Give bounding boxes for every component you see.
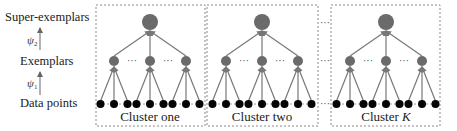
edge [337, 67, 351, 101]
data-point-node [272, 100, 280, 108]
data-point-node [418, 100, 426, 108]
cluster-group: ······Cluster one [96, 5, 205, 126]
data-point-node [308, 100, 316, 108]
ellipsis-exemplar-inner: ··· [275, 55, 285, 66]
data-point-node [196, 100, 204, 108]
label-data-points: Data points [20, 96, 77, 110]
cluster-caption: Cluster K [361, 109, 412, 124]
data-point-node [182, 100, 190, 108]
exemplar-node [109, 56, 119, 66]
edge [213, 67, 227, 101]
data-point-node [258, 100, 266, 108]
ellipsis-exemplar: ··· [320, 55, 330, 66]
edge [285, 67, 299, 101]
ellipsis-super: ··· [320, 17, 330, 28]
edge [186, 67, 200, 101]
edge [226, 67, 240, 101]
edge [150, 67, 164, 101]
label-super-exemplars: Super-exemplars [5, 10, 90, 24]
exemplar-node [345, 56, 355, 66]
between-cluster-ellipses: ··· ··· ··· [320, 17, 330, 109]
edge [101, 67, 115, 101]
data-point-node [369, 100, 377, 108]
data-point-node [294, 100, 302, 108]
edge [262, 67, 276, 101]
data-point-node [222, 100, 230, 108]
data-point-node [405, 100, 413, 108]
super-exemplar-node [378, 14, 394, 30]
exemplar-node [381, 56, 391, 66]
data-point-node [382, 100, 390, 108]
cluster-group: ······Cluster two [207, 5, 318, 126]
edge [150, 31, 186, 56]
data-point-node [169, 100, 177, 108]
edge [137, 67, 151, 101]
data-point-node [360, 100, 368, 108]
super-exemplar-node [142, 14, 158, 30]
edge [262, 31, 298, 56]
exemplar-node [293, 56, 303, 66]
psi-2-symbol: ψ [27, 34, 34, 46]
data-point-node [245, 100, 253, 108]
data-point-node [124, 100, 132, 108]
data-point-node [236, 100, 244, 108]
edge [173, 67, 187, 101]
edge [350, 67, 364, 101]
data-point-node [396, 100, 404, 108]
psi-1-symbol: ψ [27, 77, 34, 89]
data-point-node [432, 100, 440, 108]
psi-1-subscript: 1 [34, 83, 38, 91]
ellipsis-exemplar-inner: ··· [163, 55, 173, 66]
label-exemplars: Exemplars [20, 54, 74, 68]
data-point-node [110, 100, 118, 108]
edge [386, 67, 400, 101]
cluster-caption: Cluster two [232, 109, 292, 124]
psi-2-subscript: 2 [34, 40, 38, 48]
edge [386, 31, 422, 56]
data-point-node [333, 100, 341, 108]
data-point-node [346, 100, 354, 108]
cluster-caption: Cluster one [120, 109, 180, 124]
edge [422, 67, 436, 101]
data-point-node [97, 100, 105, 108]
diagram-canvas: Super-exemplars ψ 2 Exemplars ψ 1 Data p… [0, 0, 457, 131]
exemplar-node [221, 56, 231, 66]
super-exemplar-node [254, 14, 270, 30]
edge [298, 67, 312, 101]
clusters: ······Cluster one······Cluster two······… [96, 5, 440, 126]
exemplar-node [257, 56, 267, 66]
edge [114, 67, 128, 101]
data-point-node [133, 100, 141, 108]
edge [226, 31, 262, 56]
exemplar-node [145, 56, 155, 66]
data-point-node [160, 100, 168, 108]
edge [373, 67, 387, 101]
exemplar-node [181, 56, 191, 66]
data-point-node [281, 100, 289, 108]
ellipsis-exemplar-inner: ··· [363, 55, 373, 66]
cluster-group: ······Cluster K [331, 5, 440, 126]
ellipsis-exemplar-inner: ··· [399, 55, 409, 66]
edge [114, 31, 150, 56]
ellipsis-exemplar-inner: ··· [127, 55, 137, 66]
ellipsis-data: ··· [320, 98, 330, 109]
level-legend: Super-exemplars ψ 2 Exemplars ψ 1 Data p… [5, 10, 90, 110]
edge [409, 67, 423, 101]
ellipsis-exemplar-inner: ··· [239, 55, 249, 66]
exemplar-node [417, 56, 427, 66]
data-point-node [146, 100, 154, 108]
data-point-node [209, 100, 217, 108]
edge [249, 67, 263, 101]
edge [350, 31, 386, 56]
hierarchical-clustering-diagram: Super-exemplars ψ 2 Exemplars ψ 1 Data p… [0, 0, 457, 131]
